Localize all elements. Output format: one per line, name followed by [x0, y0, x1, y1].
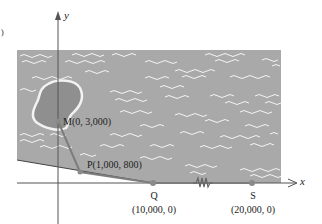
point-q: [150, 180, 156, 186]
pipeline-diagram: [0, 0, 322, 224]
y-axis-label: y: [64, 10, 69, 21]
label-s-coords: (20,000, 0): [231, 205, 275, 215]
page-marker: ): [1, 29, 4, 37]
label-m: M(0, 3,000): [63, 117, 111, 127]
point-m: [56, 119, 61, 124]
label-q-name: Q: [150, 191, 157, 201]
point-s: [249, 180, 255, 186]
x-axis-label: x: [300, 176, 305, 187]
label-p: P(1,000, 800): [87, 160, 142, 170]
label-s-name: S: [250, 191, 256, 201]
point-p: [78, 170, 83, 175]
y-axis-arrow-icon: [55, 11, 61, 20]
label-q-coords: (10,000, 0): [132, 205, 176, 215]
